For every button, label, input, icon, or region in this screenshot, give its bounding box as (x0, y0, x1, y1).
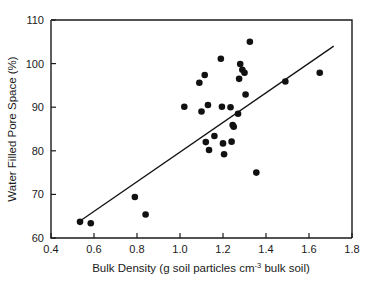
chart-figure: 0.40.60.81.01.21.41.61.8 60708090100110 … (0, 0, 382, 288)
data-point (142, 211, 149, 218)
data-point (230, 124, 237, 131)
y-tick-label: 110 (26, 14, 44, 26)
data-point (201, 72, 208, 79)
data-point (181, 103, 188, 110)
x-tick-label: 1.4 (258, 243, 273, 255)
axis-frame (51, 20, 352, 238)
data-point (282, 78, 289, 85)
x-title-superscript: -3 (255, 261, 262, 270)
data-point (253, 169, 260, 176)
data-point (198, 108, 205, 115)
data-point (241, 69, 248, 76)
y-tick-label: 100 (26, 58, 44, 70)
data-point (87, 220, 94, 227)
data-point (221, 151, 228, 158)
data-point (220, 140, 227, 147)
x-tick-label: 1.2 (215, 243, 230, 255)
data-point (242, 91, 249, 98)
data-point (205, 102, 212, 109)
data-point (77, 219, 84, 226)
data-point (219, 103, 226, 110)
data-point (227, 104, 234, 111)
data-point (196, 79, 203, 86)
x-tick-label: 1.6 (301, 243, 316, 255)
data-point (316, 69, 323, 76)
data-point (247, 39, 254, 46)
scatter-plot: 0.40.60.81.01.21.41.61.8 60708090100110 … (0, 0, 382, 288)
data-point (206, 147, 213, 154)
x-tick-label: 0.6 (86, 243, 101, 255)
x-tick-label: 1.8 (344, 243, 359, 255)
x-title-post: bulk soil) (261, 262, 310, 274)
y-tick-label: 90 (32, 101, 44, 113)
x-axis-ticks: 0.40.60.81.01.21.41.61.8 (43, 233, 359, 255)
data-point (228, 138, 235, 145)
y-tick-label: 80 (32, 145, 44, 157)
x-tick-label: 0.4 (43, 243, 58, 255)
x-tick-label: 1.0 (172, 243, 187, 255)
data-point (235, 110, 242, 117)
trend-line (80, 46, 334, 221)
data-point (218, 56, 225, 63)
data-point (237, 61, 244, 68)
y-axis-title: Water Filled Pore Space (%) (6, 56, 18, 201)
data-point (211, 133, 218, 140)
x-axis-title: Bulk Density (g soil particles cm-3 bulk… (92, 261, 310, 274)
x-title-pre: Bulk Density (g soil particles cm (92, 262, 254, 274)
y-tick-label: 60 (32, 232, 44, 244)
data-point (236, 76, 243, 83)
x-tick-label: 0.8 (129, 243, 144, 255)
data-point (132, 194, 139, 201)
data-point (203, 139, 210, 146)
y-tick-label: 70 (32, 188, 44, 200)
